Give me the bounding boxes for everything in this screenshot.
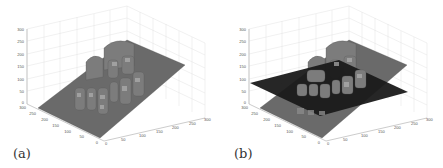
x-tick: 0 <box>105 141 108 146</box>
z-tick: 50 <box>20 89 25 94</box>
z-tick: 150 <box>17 64 24 69</box>
panel-label-a: (a) <box>13 146 31 161</box>
panel-label-b: (b) <box>234 146 252 161</box>
y-tick: 50 <box>302 134 307 139</box>
y-tick: 0 <box>318 140 321 145</box>
z-tick: 300 <box>17 27 24 32</box>
x-tick: 200 <box>394 125 401 130</box>
y-tick: 150 <box>52 123 59 128</box>
z-tick: 50 <box>242 89 247 94</box>
y-tick: 0 <box>96 140 99 145</box>
x-tick: 50 <box>121 137 126 142</box>
z-tick: 250 <box>239 39 246 44</box>
x-tick: 100 <box>361 133 368 138</box>
y-tick: 200 <box>41 117 48 122</box>
z-tick: 200 <box>17 52 24 57</box>
surface-plot-a: 300 250 200 150 100 50 0 300 250 200 150… <box>0 0 221 168</box>
x-tick: 50 <box>343 137 348 142</box>
panel-b: 300 250 200 150 100 50 0 300 250 200 150… <box>222 0 443 168</box>
z-tick: 300 <box>239 27 246 32</box>
x-tick: 250 <box>189 121 196 126</box>
x-tick: 150 <box>378 129 385 134</box>
x-tick: 100 <box>139 133 146 138</box>
z-tick: 250 <box>17 39 24 44</box>
y-tick: 300 <box>241 105 248 110</box>
x-tick: 150 <box>156 129 163 134</box>
z-tick: 200 <box>239 52 246 57</box>
x-tick: 300 <box>426 117 433 122</box>
y-tick: 200 <box>263 117 270 122</box>
x-tick: 250 <box>411 121 418 126</box>
z-tick: 100 <box>239 77 246 82</box>
x-tick: 300 <box>204 117 211 122</box>
x-tick: 0 <box>327 141 330 146</box>
surface-plot-b: 300 250 200 150 100 50 0 300 250 200 150… <box>222 0 443 168</box>
x-tick: 200 <box>172 125 179 130</box>
panel-a: 300 250 200 150 100 50 0 300 250 200 150… <box>0 0 221 168</box>
z-tick: 150 <box>239 64 246 69</box>
y-tick: 50 <box>80 134 85 139</box>
y-tick: 250 <box>29 111 36 116</box>
y-tick: 250 <box>251 111 258 116</box>
y-tick: 150 <box>274 123 281 128</box>
z-tick: 100 <box>17 77 24 82</box>
y-tick: 100 <box>286 129 293 134</box>
y-tick: 100 <box>64 129 71 134</box>
y-tick: 300 <box>19 105 26 110</box>
